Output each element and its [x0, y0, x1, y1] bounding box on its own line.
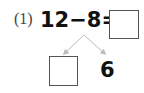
arrow-left-icon — [65, 35, 84, 53]
decomposition-right-value: 6 — [100, 58, 115, 82]
decomposition-left-box[interactable] — [49, 56, 78, 86]
arrow-right-icon — [84, 35, 104, 53]
